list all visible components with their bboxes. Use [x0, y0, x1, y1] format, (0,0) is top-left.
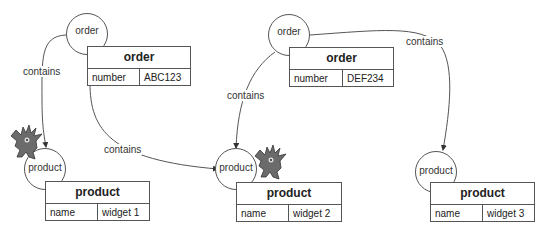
field-value: DEF234 [343, 70, 384, 87]
edge-label-contains-3: contains [226, 90, 265, 101]
field-key: name [46, 204, 98, 221]
field-key: number [88, 69, 140, 86]
edge-label-contains-4: contains [405, 36, 444, 47]
order-table[interactable]: order numberABC123 [87, 46, 191, 86]
field-key: number [290, 70, 343, 87]
field-key: name [237, 205, 289, 222]
edge-order1-product1 [42, 35, 66, 147]
circle-label: order [75, 25, 98, 36]
edge-label-contains-1: contains [22, 66, 61, 77]
circle-label: product [419, 165, 452, 176]
product-table[interactable]: product namewidget 3 [430, 182, 535, 222]
product-table[interactable]: product namewidget 2 [236, 182, 342, 222]
table-title: product [237, 183, 341, 205]
edge-label-contains-2: contains [103, 144, 142, 155]
field-value: widget 1 [98, 204, 139, 221]
table-title: order [290, 48, 393, 70]
field-key: name [431, 205, 483, 222]
field-value: ABC123 [140, 69, 181, 86]
table-title: product [46, 182, 149, 204]
field-value: widget 2 [289, 205, 330, 222]
circle-label: product [219, 162, 252, 173]
field-value: widget 3 [483, 205, 524, 222]
monster-icon [254, 144, 288, 182]
circle-label: product [28, 162, 61, 173]
table-title: order [88, 47, 190, 69]
product-table[interactable]: product namewidget 1 [45, 181, 150, 221]
circle-label: order [277, 26, 300, 37]
monster-icon [10, 124, 44, 162]
table-title: product [431, 183, 534, 205]
order-table[interactable]: order numberDEF234 [289, 47, 394, 87]
edge-order1-product2 [90, 83, 218, 169]
